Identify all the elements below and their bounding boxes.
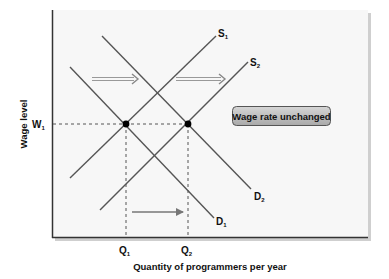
equilibrium-point-1: [123, 121, 130, 128]
badge-text: Wage rate unchanged: [232, 111, 331, 122]
supply-demand-chart: S1 S2 D1 D2 W1 Q1 Q2 Quantity of program…: [0, 0, 389, 279]
tick-q1: Q1: [119, 245, 131, 257]
tick-w1: W1: [32, 119, 45, 131]
tick-q2: Q2: [181, 245, 193, 257]
wage-unchanged-badge: Wage rate unchanged: [232, 107, 331, 126]
y-axis-title: Wage level: [18, 100, 29, 149]
equilibrium-point-2: [185, 121, 192, 128]
x-axis-title: Quantity of programmers per year: [133, 261, 287, 272]
